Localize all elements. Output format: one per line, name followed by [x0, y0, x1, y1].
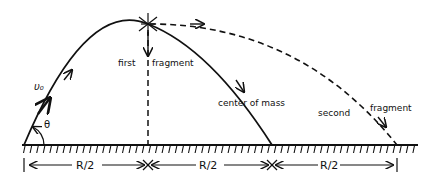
dimension-label-2: R/2: [199, 159, 217, 172]
center-of-mass-label: center of mass: [218, 98, 285, 108]
explosion-icon: [139, 13, 157, 35]
second-fragment-label-a: second: [318, 108, 350, 118]
dimension-label-3: R/2: [320, 159, 338, 172]
ground: [22, 145, 418, 153]
dimension-label-1: R/2: [76, 159, 94, 172]
angle-label: θ: [44, 119, 50, 130]
angle-arc: [33, 127, 44, 145]
second-fragment-landing-arrow-icon: [378, 117, 386, 127]
first-fragment-label-b: fragment: [152, 58, 194, 68]
second-fragment-trajectory: [150, 24, 397, 145]
first-fragment-label-a: first: [118, 58, 136, 68]
second-fragment-label-b: fragment: [370, 103, 412, 113]
projectile-fragment-diagram: θ υ₀ first fragment center of mass secon…: [0, 0, 436, 190]
ascent-arrow-icon: [64, 70, 72, 80]
descent-arrow-icon: [236, 80, 244, 92]
initial-velocity-label: υ₀: [34, 81, 44, 92]
